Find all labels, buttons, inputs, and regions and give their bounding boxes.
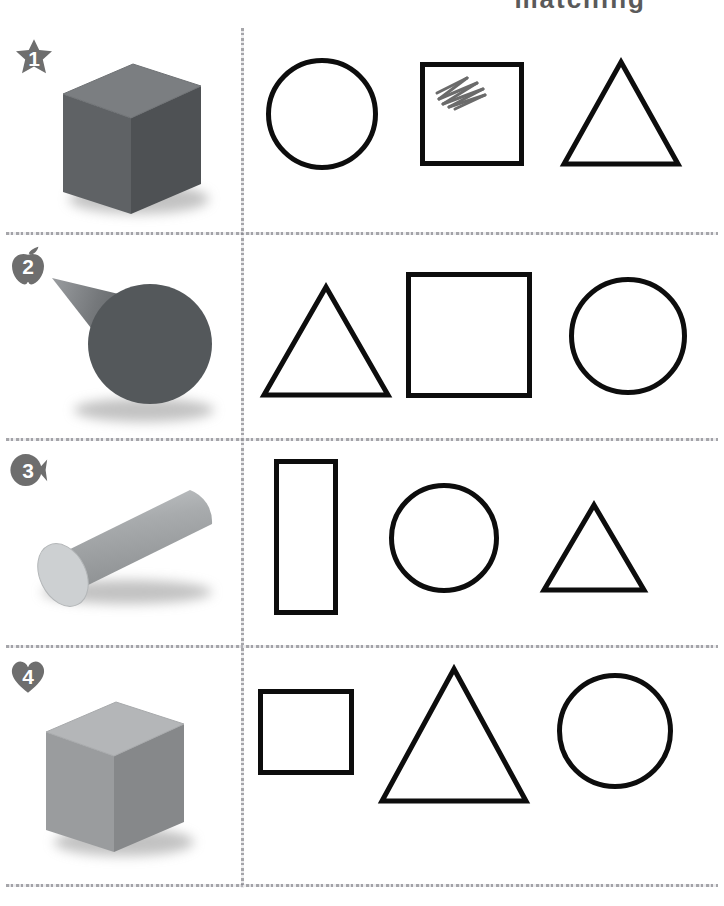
table-row: 4 bbox=[0, 650, 724, 884]
circle-shape bbox=[266, 58, 378, 170]
row-divider-1 bbox=[6, 232, 718, 235]
page-title-fragment: matching bbox=[514, 0, 646, 15]
row-2-prompt: 2 bbox=[0, 236, 241, 438]
pencil-mark-icon bbox=[433, 73, 491, 113]
triangle-shape bbox=[376, 663, 532, 807]
row-number: 4 bbox=[22, 666, 34, 687]
row-1-prompt: 1 bbox=[0, 26, 241, 232]
square-shape bbox=[420, 62, 524, 166]
apple-badge: 2 bbox=[8, 246, 48, 286]
triangle-shape bbox=[539, 500, 649, 596]
square-shape bbox=[258, 689, 354, 775]
table-row: 1 bbox=[0, 26, 724, 232]
option-circle[interactable] bbox=[566, 274, 690, 398]
solid-cube bbox=[55, 56, 205, 221]
option-triangle[interactable] bbox=[374, 660, 534, 810]
star-badge: 1 bbox=[14, 38, 54, 78]
option-circle[interactable] bbox=[386, 480, 502, 596]
row-divider-3 bbox=[6, 645, 718, 648]
table-row: 3 bbox=[0, 442, 724, 645]
solid-cube bbox=[38, 696, 188, 861]
row-1-options bbox=[244, 26, 724, 232]
row-number: 2 bbox=[22, 256, 34, 277]
option-square[interactable] bbox=[256, 682, 356, 782]
rectangle-shape bbox=[274, 459, 338, 615]
row-2-options bbox=[244, 236, 724, 438]
table-row: 2 bbox=[0, 236, 724, 438]
cone-illustration bbox=[48, 256, 228, 426]
triangle-shape bbox=[258, 281, 394, 401]
circle-shape bbox=[389, 483, 499, 593]
option-triangle[interactable] bbox=[256, 278, 396, 404]
option-circle[interactable] bbox=[554, 670, 676, 792]
row-number: 1 bbox=[28, 48, 40, 69]
row-divider-2 bbox=[6, 438, 718, 441]
row-divider-4 bbox=[6, 884, 718, 887]
cube-illustration bbox=[55, 56, 205, 221]
row-3-prompt: 3 bbox=[0, 442, 241, 645]
option-circle[interactable] bbox=[262, 54, 382, 174]
circle-shape bbox=[557, 673, 673, 789]
solid-cone bbox=[48, 256, 228, 426]
row-3-options bbox=[244, 442, 724, 645]
row-4-options bbox=[244, 650, 724, 884]
triangle-shape bbox=[558, 56, 684, 170]
option-square[interactable] bbox=[416, 58, 528, 170]
cube-illustration bbox=[38, 696, 188, 861]
option-rectangle[interactable] bbox=[268, 452, 344, 622]
worksheet-page: matching 1 bbox=[0, 0, 724, 906]
row-4-prompt: 4 bbox=[0, 650, 241, 884]
row-number: 3 bbox=[22, 460, 34, 481]
cylinder-illustration bbox=[20, 484, 235, 609]
option-triangle[interactable] bbox=[556, 52, 686, 174]
option-triangle[interactable] bbox=[536, 496, 651, 600]
option-square[interactable] bbox=[404, 270, 534, 400]
square-shape bbox=[406, 272, 532, 398]
solid-cylinder bbox=[20, 484, 235, 609]
circle-shape bbox=[569, 277, 687, 395]
heart-badge: 4 bbox=[8, 656, 48, 696]
